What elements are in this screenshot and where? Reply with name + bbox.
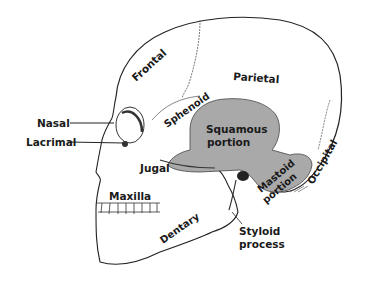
label-dentary: Dentary (158, 210, 202, 245)
ear-canal (237, 171, 249, 181)
label-jugal: Jugal (139, 162, 170, 174)
skull-diagram: Frontal Parietal Sphenoid Squamous porti… (0, 0, 366, 282)
label-lacrimal: Lacrimal (26, 136, 76, 148)
label-maxilla: Maxilla (109, 190, 151, 202)
styloid-process (229, 180, 236, 210)
label-nasal: Nasal (37, 117, 70, 129)
orbit-shading (122, 112, 142, 132)
dentary-outline (212, 170, 238, 232)
teeth (96, 203, 160, 214)
label-parietal: Parietal (233, 70, 280, 85)
label-frontal: Frontal (129, 46, 168, 83)
coronal-suture (182, 20, 200, 98)
label-styloid-2: process (239, 238, 285, 250)
label-squamous-2: portion (207, 136, 250, 148)
label-squamous-1: Squamous (206, 123, 268, 135)
label-styloid-1: Styloid (239, 225, 280, 237)
lacrimal-spot (122, 141, 128, 147)
